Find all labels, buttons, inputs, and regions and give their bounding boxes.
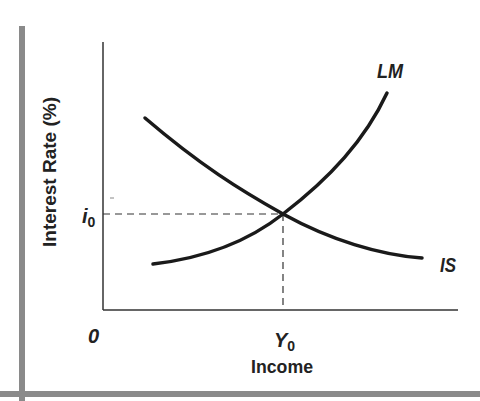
x-axis-title: Income: [251, 356, 313, 377]
lm-curve: [153, 93, 387, 264]
y0-label-sub: 0: [287, 338, 295, 354]
i0-label: i0: [82, 205, 96, 230]
is-lm-diagram: LM IS i0 Y0 0 Income Interest Rate (%): [0, 0, 480, 401]
bottom-frame-bar: [0, 391, 480, 397]
y0-label: Y0: [274, 329, 295, 354]
lm-label: LM: [377, 60, 404, 82]
is-curve: [145, 118, 422, 258]
i0-label-sub: 0: [88, 214, 96, 230]
is-label: IS: [440, 254, 457, 276]
left-frame-bar: [19, 26, 25, 401]
y-axis-title: Interest Rate (%): [40, 97, 60, 247]
origin-label: 0: [88, 325, 99, 347]
